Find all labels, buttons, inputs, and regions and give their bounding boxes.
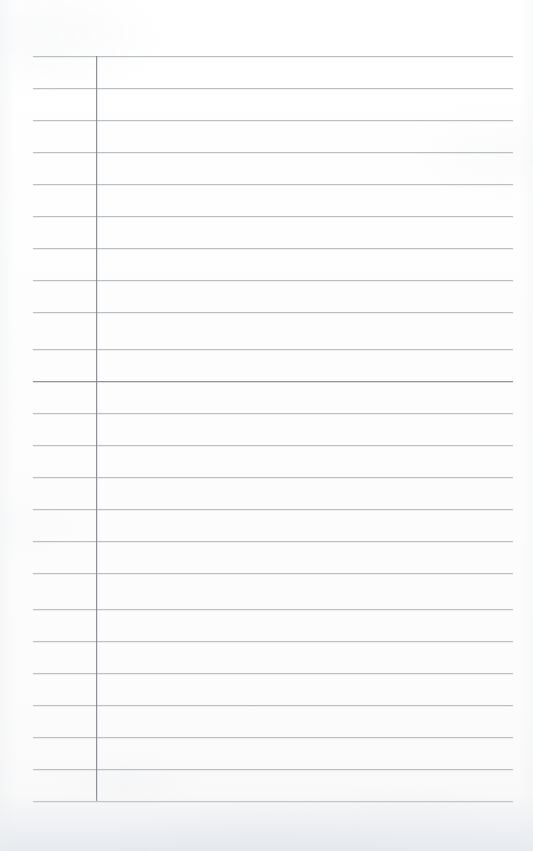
ruled-line-8 xyxy=(33,280,513,281)
ruled-line-17 xyxy=(33,573,513,574)
ruled-line-24 xyxy=(33,801,513,802)
ruled-line-5 xyxy=(33,184,513,185)
ruled-line-1 xyxy=(33,56,513,57)
ruled-line-4 xyxy=(33,152,513,153)
scanned-page xyxy=(0,0,533,851)
ruled-line-18 xyxy=(33,609,513,610)
ruled-line-23 xyxy=(33,769,513,770)
ruled-line-15 xyxy=(33,509,513,510)
ruled-line-20 xyxy=(33,673,513,674)
ruled-line-21 xyxy=(33,705,513,706)
ruled-line-2 xyxy=(33,88,513,89)
ruled-line-6 xyxy=(33,216,513,217)
ruled-line-7 xyxy=(33,248,513,249)
ruled-line-19 xyxy=(33,641,513,642)
ruled-line-13 xyxy=(33,445,513,446)
ruled-line-14 xyxy=(33,477,513,478)
ruled-line-11 xyxy=(33,381,513,382)
ruled-line-16 xyxy=(33,541,513,542)
ruled-line-22 xyxy=(33,737,513,738)
ruled-line-9 xyxy=(33,312,513,313)
margin-rule-vertical xyxy=(96,56,97,801)
ruled-line-12 xyxy=(33,413,513,414)
ruled-line-3 xyxy=(33,120,513,121)
ruled-line-10 xyxy=(33,349,513,350)
ruling-layer xyxy=(0,0,533,851)
